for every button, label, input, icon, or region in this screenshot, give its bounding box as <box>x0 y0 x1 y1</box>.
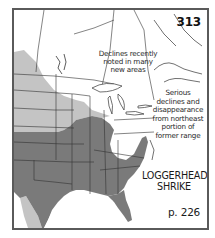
species-name: LOGGERHEAD SHRIKE <box>142 170 206 192</box>
plate-number: 313 <box>177 15 201 29</box>
lake-winnipeg <box>56 54 66 74</box>
species-name-line: LOGGERHEAD <box>142 170 206 181</box>
annotation-line: new areas <box>92 66 164 74</box>
annotation-northeast-declines: Serious declines and disappearance from … <box>148 89 208 141</box>
species-name-line: SHRIKE <box>142 181 206 192</box>
range-map-frame: 313 Declines recently noted in many new … <box>12 8 209 230</box>
annotation-line: former range <box>148 132 208 141</box>
page-reference: p. 226 <box>164 206 204 218</box>
great-lakes <box>92 83 152 115</box>
annotation-recent-declines: Declines recently noted in many new area… <box>92 50 164 75</box>
